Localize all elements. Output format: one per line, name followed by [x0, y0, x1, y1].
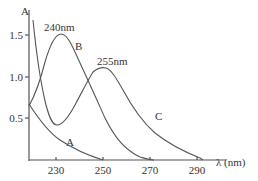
- uv-absorption-chart: 1.5 1.0 0.5 230 250 270 290 A λ (nm) 240…: [0, 0, 258, 181]
- y-tick-label: 0.5: [9, 112, 23, 124]
- peak-label-255: 255nm: [97, 55, 128, 67]
- curve-label-c: C: [155, 110, 162, 122]
- x-tick-label: 230: [48, 164, 65, 176]
- x-tick-label: 270: [142, 164, 159, 176]
- x-axis-label: λ (nm): [216, 156, 246, 169]
- peak-label-240: 240nm: [44, 21, 75, 33]
- x-tick-label: 290: [189, 164, 206, 176]
- y-tick-label: 1.0: [9, 71, 23, 83]
- curve-c: [93, 68, 203, 160]
- curve-a-tail: [29, 104, 103, 160]
- curve-label-b: B: [75, 40, 82, 52]
- curve-label-a: A: [66, 136, 74, 148]
- x-tick-label: 250: [95, 164, 112, 176]
- y-axis-label: A: [21, 5, 29, 17]
- chart-svg: 1.5 1.0 0.5 230 250 270 290 A λ (nm) 240…: [0, 0, 258, 181]
- y-tick-label: 1.5: [9, 29, 23, 41]
- curve-b: [29, 34, 154, 160]
